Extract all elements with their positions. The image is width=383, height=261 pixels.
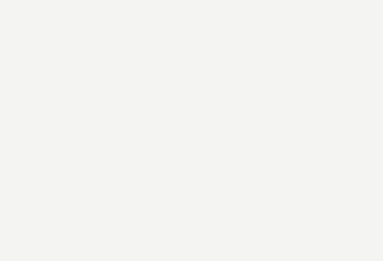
pancreas-svg — [0, 0, 383, 261]
